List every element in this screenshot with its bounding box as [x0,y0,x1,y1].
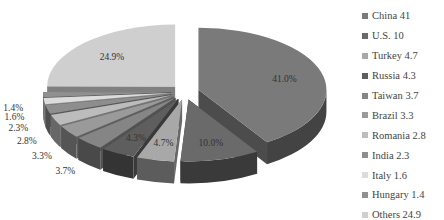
legend-label: Turkey 4.7 [372,50,418,61]
legend-label: Others 24.9 [372,209,421,220]
legend-swatch [362,13,368,19]
legend-label: India 2.3 [372,150,409,161]
legend-item: Turkey 4.7 [362,46,426,66]
legend-swatch [362,172,368,178]
legend-label: Russia 4.3 [372,70,416,81]
legend-label: Brazil 3.3 [372,110,413,121]
legend-swatch [362,132,368,138]
data-label: 3.3% [32,151,52,161]
data-label: 10.0% [199,138,224,148]
chart-legend: China 41 U.S. 10 Turkey 4.7 Russia 4.3 T… [362,6,426,220]
legend-swatch [362,212,368,218]
legend-item: Russia 4.3 [362,66,426,86]
legend-swatch [362,33,368,39]
legend-label: Italy 1.6 [372,170,407,181]
legend-item: Italy 1.6 [362,165,426,185]
legend-item: Others 24.9 [362,205,426,220]
data-label: 4.3% [126,133,146,143]
data-label: 2.3% [8,123,28,133]
legend-label: China 41 [372,10,410,21]
legend-item: India 2.3 [362,145,426,165]
legend-swatch [362,192,368,198]
data-label: 4.7% [154,138,174,148]
data-label: 2.8% [17,136,37,146]
pie-chart: 41.0%10.0%4.7%4.3%3.7%3.3%2.8%2.3%1.6%1.… [0,0,340,220]
legend-label: Romania 2.8 [372,130,426,141]
legend-label: Taiwan 3.7 [372,90,419,101]
data-label: 24.9% [100,52,125,62]
legend-item: Brazil 3.3 [362,105,426,125]
legend-item: Taiwan 3.7 [362,86,426,106]
legend-label: Hungary 1.4 [372,189,425,200]
legend-item: Romania 2.8 [362,125,426,145]
legend-item: Hungary 1.4 [362,185,426,205]
legend-swatch [362,152,368,158]
legend-swatch [362,112,368,118]
data-label: 1.4% [3,103,23,113]
data-label: 3.7% [55,166,75,176]
legend-label: U.S. 10 [372,30,404,41]
data-label: 41.0% [272,74,297,84]
legend-swatch [362,93,368,99]
legend-swatch [362,53,368,59]
legend-swatch [362,73,368,79]
legend-item: China 41 [362,6,426,26]
legend-item: U.S. 10 [362,26,426,46]
